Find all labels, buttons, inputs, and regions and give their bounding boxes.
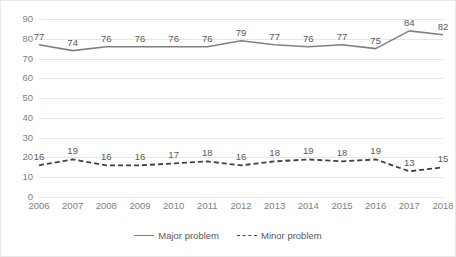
data-label: 19 [370,146,381,156]
data-label: 13 [404,158,415,168]
data-label: 18 [202,148,213,158]
x-axis-tick-label: 2007 [62,201,83,211]
data-label: 74 [67,37,78,47]
x-axis-tick-label: 2008 [96,201,117,211]
x-axis-tick-label: 2018 [432,201,453,211]
data-label: 84 [404,17,415,27]
x-axis-tick-label: 2017 [399,201,420,211]
plot-area: 0102030405060708090 77747676767679777677… [39,19,443,197]
x-axis-tick-label: 2010 [163,201,184,211]
x-axis-tick-label: 2011 [197,201,217,211]
data-label: 17 [168,150,179,160]
legend-item-2[interactable]: Minor problem [237,231,322,241]
x-axis-tick-label: 2015 [331,201,352,211]
data-label: 76 [135,33,146,43]
data-label: 16 [135,152,146,162]
y-axis-tick-label: 80 [22,34,33,44]
data-label: 77 [269,31,280,41]
line-chart: 0102030405060708090 77747676767679777677… [0,0,456,257]
data-label: 82 [438,21,449,31]
data-label: 18 [269,148,280,158]
x-axis: 2006200720082009201020112012201320142015… [39,201,443,217]
y-axis-tick-label: 70 [22,54,33,64]
y-axis-tick-label: 50 [22,93,33,103]
chart-legend: Major problemMinor problem [1,231,455,241]
data-label: 18 [337,148,348,158]
data-label: 19 [67,146,78,156]
x-axis-tick-label: 2009 [129,201,150,211]
legend-label: Minor problem [261,231,322,241]
data-label: 16 [236,152,247,162]
y-axis-tick-label: 20 [22,153,33,163]
data-label: 76 [101,33,112,43]
legend-line-icon [134,235,154,236]
y-axis-tick-label: 30 [22,133,33,143]
data-label: 77 [337,31,348,41]
gridline [39,197,443,198]
data-label: 75 [370,35,381,45]
legend-line-icon [237,235,257,236]
data-label: 76 [303,33,314,43]
data-label: 76 [168,33,179,43]
y-axis-tick-label: 10 [22,172,33,182]
data-label: 79 [236,27,247,37]
y-axis-tick-label: 40 [22,113,33,123]
data-label: 15 [438,154,449,164]
x-axis-tick-label: 2016 [365,201,386,211]
legend-item-1[interactable]: Major problem [134,231,219,241]
data-label: 16 [101,152,112,162]
y-axis-tick-label: 90 [22,14,33,24]
data-label: 16 [34,152,45,162]
x-axis-tick-label: 2012 [230,201,251,211]
legend-label: Major problem [158,231,219,241]
data-label: 19 [303,146,314,156]
data-label: 77 [34,31,45,41]
series-lines [39,19,443,197]
x-axis-tick-label: 2014 [298,201,319,211]
y-axis-tick-label: 60 [22,74,33,84]
data-label: 76 [202,33,213,43]
x-axis-tick-label: 2013 [264,201,285,211]
x-axis-tick-label: 2006 [28,201,49,211]
